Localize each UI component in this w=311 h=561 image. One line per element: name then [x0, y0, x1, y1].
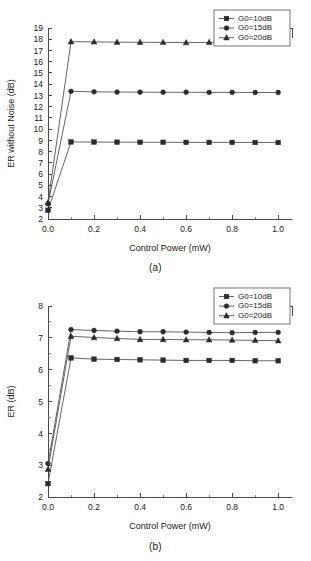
series-line-0: [48, 142, 278, 210]
data-point-marker: [92, 140, 97, 145]
data-point-marker: [138, 90, 143, 95]
y-tick-label: 3: [38, 460, 43, 470]
data-point-marker: [184, 358, 189, 363]
data-point-marker: [230, 90, 235, 95]
data-point-marker: [184, 140, 189, 145]
x-tick-label: 0.4: [134, 224, 146, 234]
y-axis-title: ER (dB): [6, 385, 16, 417]
y-tick-label: 4: [38, 192, 43, 202]
panel-caption-b: (b): [0, 541, 311, 552]
y-axis-title: ER without Noise (dB): [6, 79, 16, 168]
data-point-marker: [46, 481, 51, 486]
x-tick-label: 0.0: [42, 224, 54, 234]
data-point-marker: [184, 90, 189, 95]
data-point-marker: [161, 140, 166, 145]
data-point-marker: [138, 329, 143, 334]
legend-label: G0=20dB: [238, 311, 272, 320]
legend-label: G0=10dB: [238, 292, 272, 301]
data-point-marker: [161, 329, 166, 334]
data-point-marker: [46, 208, 51, 213]
chart-svg-a: 23456789101112131415161718190.00.20.40.6…: [0, 0, 311, 262]
legend-marker-square: [224, 294, 229, 299]
data-point-marker: [276, 140, 281, 145]
data-point-marker: [207, 140, 212, 145]
y-tick-label: 7: [38, 158, 43, 168]
data-point-marker: [253, 140, 258, 145]
y-tick-label: 6: [38, 169, 43, 179]
chart-panel-b: 23456780.00.20.40.60.81.0Control Power (…: [0, 278, 311, 561]
data-point-marker: [115, 357, 120, 362]
data-point-marker: [230, 358, 235, 363]
y-tick-label: 4: [38, 429, 43, 439]
data-point-marker: [92, 357, 97, 362]
data-point-marker: [184, 330, 189, 335]
y-tick-label: 15: [34, 68, 44, 78]
data-point-marker: [92, 328, 97, 333]
y-tick-label: 16: [34, 57, 44, 67]
data-point-marker: [276, 90, 281, 95]
data-point-marker: [230, 330, 235, 335]
data-point-marker: [276, 358, 281, 363]
legend-marker-circle: [224, 304, 229, 309]
data-point-marker: [69, 356, 74, 361]
data-point-marker: [253, 358, 258, 363]
series-line-1: [48, 91, 278, 203]
data-point-marker: [253, 90, 258, 95]
x-tick-label: 0.0: [42, 502, 54, 512]
chart-svg-b: 23456780.00.20.40.60.81.0Control Power (…: [0, 278, 311, 540]
data-point-marker: [230, 140, 235, 145]
x-tick-label: 0.4: [134, 502, 146, 512]
axis-frame: [48, 28, 292, 219]
x-tick-label: 0.6: [180, 224, 192, 234]
data-point-marker: [138, 140, 143, 145]
legend-label: G0=15dB: [238, 23, 272, 32]
x-axis-title: Control Power (mW): [129, 521, 211, 531]
x-axis-title: Control Power (mW): [129, 243, 211, 253]
x-tick-label: 0.2: [88, 224, 100, 234]
data-point-marker: [115, 90, 120, 95]
data-point-marker: [69, 89, 74, 94]
data-point-marker: [161, 358, 166, 363]
y-tick-label: 8: [38, 147, 43, 157]
series-line-2: [48, 336, 278, 469]
x-tick-label: 0.6: [180, 502, 192, 512]
y-tick-label: 14: [34, 79, 44, 89]
data-point-marker: [207, 358, 212, 363]
legend-marker-square: [224, 16, 229, 21]
x-tick-label: 1.0: [272, 502, 284, 512]
data-point-marker: [207, 90, 212, 95]
y-tick-label: 17: [34, 46, 44, 56]
series-line-2: [48, 42, 278, 203]
x-tick-label: 0.8: [226, 502, 238, 512]
data-point-marker: [276, 330, 281, 335]
x-tick-label: 1.0: [272, 224, 284, 234]
y-tick-label: 2: [38, 492, 43, 502]
data-point-marker: [115, 140, 120, 145]
y-tick-label: 6: [38, 365, 43, 375]
data-point-marker: [69, 327, 74, 332]
panel-caption-a: (a): [0, 262, 311, 273]
data-point-marker: [206, 39, 212, 44]
y-tick-label: 18: [34, 34, 44, 44]
y-tick-label: 7: [38, 333, 43, 343]
y-tick-label: 3: [38, 203, 43, 213]
y-tick-label: 11: [34, 113, 43, 123]
data-point-marker: [138, 357, 143, 362]
data-point-marker: [68, 333, 74, 338]
legend-label: G0=10dB: [238, 14, 272, 23]
legend-label: G0=20dB: [238, 33, 272, 42]
data-point-marker: [161, 90, 166, 95]
series-line-0: [48, 358, 278, 484]
chart-panel-a: 23456789101112131415161718190.00.20.40.6…: [0, 0, 311, 283]
y-tick-label: 2: [38, 214, 43, 224]
x-tick-label: 0.8: [226, 224, 238, 234]
legend-marker-circle: [224, 26, 229, 31]
data-point-marker: [92, 89, 97, 94]
data-point-marker: [115, 329, 120, 334]
data-point-marker: [45, 466, 51, 471]
y-tick-label: 5: [38, 180, 43, 190]
data-point-marker: [69, 140, 74, 145]
y-tick-label: 8: [38, 301, 43, 311]
data-point-marker: [253, 330, 258, 335]
y-tick-label: 9: [38, 136, 43, 146]
